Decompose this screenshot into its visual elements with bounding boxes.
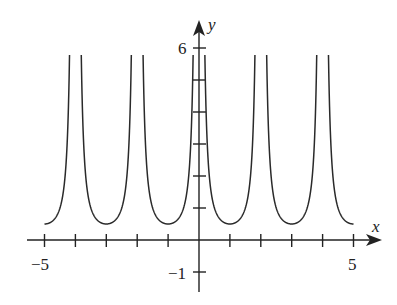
x-tick-label-neg5: −5: [31, 255, 49, 274]
y-axis-label: y: [206, 15, 216, 34]
axes: [27, 32, 370, 292]
x-tick-label-5: 5: [348, 255, 357, 274]
y-tick-label-6: 6: [178, 39, 187, 58]
y-tick-label-neg1: −1: [168, 264, 186, 283]
chart-canvas: x y 6 −1 −5 5: [0, 0, 397, 305]
x-axis-label: x: [371, 217, 380, 236]
